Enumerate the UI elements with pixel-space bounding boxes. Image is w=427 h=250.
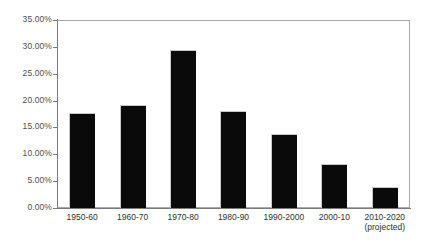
bar[interactable] bbox=[120, 105, 146, 208]
category-label-line1: 2000-10 bbox=[319, 212, 350, 222]
bar-slot bbox=[360, 20, 410, 208]
bar[interactable] bbox=[271, 134, 297, 208]
y-axis-tick-label: 10.00% bbox=[0, 149, 52, 158]
category-label-line1: 1950-60 bbox=[67, 212, 98, 222]
y-axis-tick-label: 25.00% bbox=[0, 69, 52, 78]
y-axis-tick-label: 30.00% bbox=[0, 42, 52, 51]
bar[interactable] bbox=[69, 113, 95, 208]
bar-series bbox=[57, 20, 410, 208]
y-axis-tick-label: 35.00% bbox=[0, 15, 52, 24]
bar[interactable] bbox=[321, 164, 347, 208]
bar-slot bbox=[309, 20, 359, 208]
category-label-line1: 1980-90 bbox=[218, 212, 249, 222]
y-axis-tick-label: 0.00% bbox=[0, 203, 52, 212]
bar-slot bbox=[107, 20, 157, 208]
bar[interactable] bbox=[220, 111, 246, 208]
y-axis-tick-mark bbox=[53, 208, 57, 209]
category-label-line2: (projected) bbox=[354, 222, 416, 232]
x-axis-category-label: 2010-2020(projected) bbox=[354, 212, 416, 232]
category-label-line1: 2010-2020 bbox=[364, 212, 405, 222]
category-label-line1: 1970-80 bbox=[167, 212, 198, 222]
y-axis-tick-label: 5.00% bbox=[0, 176, 52, 185]
bar[interactable] bbox=[372, 187, 398, 208]
bar-slot bbox=[208, 20, 258, 208]
bar[interactable] bbox=[170, 50, 196, 208]
bar-slot bbox=[259, 20, 309, 208]
y-axis-tick-label: 15.00% bbox=[0, 122, 52, 131]
bar-slot bbox=[57, 20, 107, 208]
category-label-line1: 1990-2000 bbox=[264, 212, 305, 222]
category-label-line1: 1960-70 bbox=[117, 212, 148, 222]
bar-chart: 0.00%5.00%10.00%15.00%20.00%25.00%30.00%… bbox=[0, 0, 427, 250]
y-axis-tick-label: 20.00% bbox=[0, 96, 52, 105]
x-axis-line bbox=[57, 208, 411, 209]
bar-slot bbox=[158, 20, 208, 208]
